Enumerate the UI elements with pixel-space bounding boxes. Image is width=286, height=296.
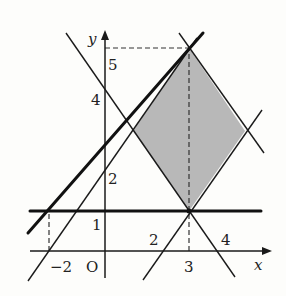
tick-label-y-2: 2 (108, 170, 118, 188)
y-axis-arrow-icon (101, 30, 109, 40)
tick-label-x-2: 2 (149, 231, 159, 249)
origin-label: O (86, 258, 98, 276)
tick-label-y-4: 4 (91, 91, 101, 109)
tick-label-y-5: 5 (108, 56, 118, 74)
tick-label-x-4: 4 (221, 231, 231, 249)
vertex-point-3-1 (187, 209, 192, 214)
y-axis-label: y (87, 30, 97, 48)
tick-label-x-neg2: −2 (50, 258, 72, 276)
coordinate-plane: y x O −2 2 3 4 1 2 4 5 (0, 0, 286, 296)
tick-label-y-1: 1 (92, 216, 102, 234)
x-axis-arrow-icon (262, 247, 272, 255)
x-axis-label: x (254, 256, 263, 274)
tick-label-x-3: 3 (184, 258, 194, 276)
